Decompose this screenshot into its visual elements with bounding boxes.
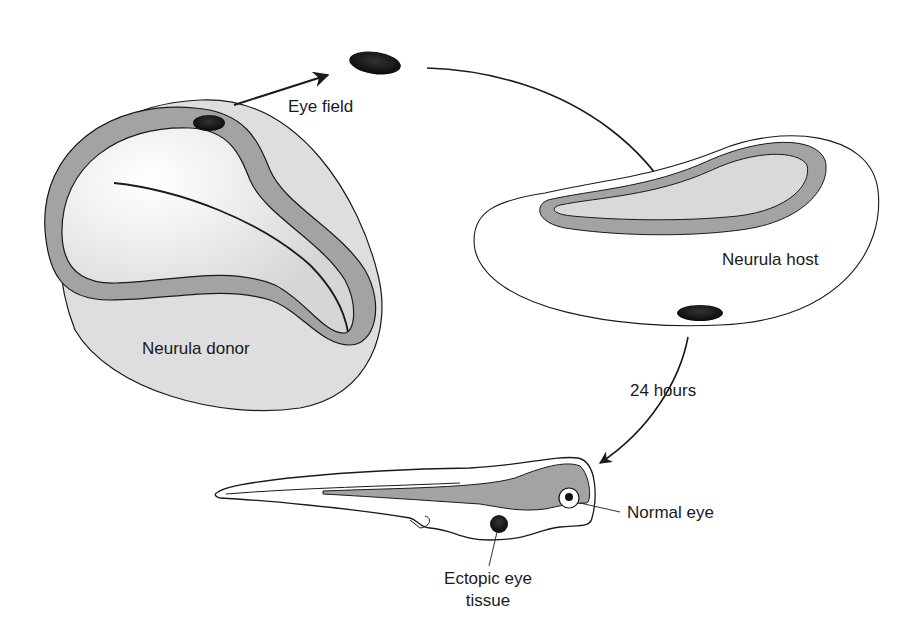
ectopic-eye-tissue <box>490 515 508 533</box>
neurula-host-embryo <box>474 136 879 326</box>
extracted-eye-field <box>348 48 403 77</box>
neurula-donor-embryo <box>45 100 382 411</box>
label-ectopic-line1: Ectopic eye <box>428 569 548 589</box>
diagram-canvas <box>0 0 905 641</box>
label-neurula-host: Neurula host <box>722 250 818 270</box>
tadpole-larva <box>215 457 595 540</box>
grafted-eye-field <box>677 305 723 321</box>
label-normal-eye: Normal eye <box>627 503 714 523</box>
donor-eye-field-spot <box>193 115 225 131</box>
label-ectopic-line2: tissue <box>428 591 548 611</box>
label-eye-field: Eye field <box>288 97 353 117</box>
label-24-hours: 24 hours <box>630 381 696 401</box>
label-neurula-donor: Neurula donor <box>142 339 250 359</box>
